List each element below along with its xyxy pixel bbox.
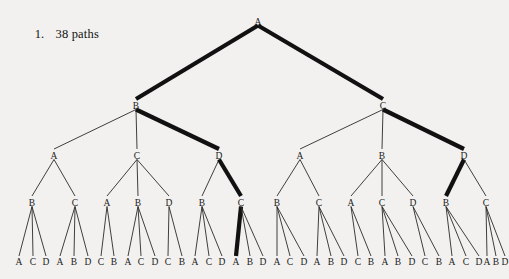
tree-leaf-edge-30 (413, 207, 425, 257)
tree-leaf-label-12: B (179, 257, 185, 267)
tree-node-label-n1c: D (216, 151, 223, 161)
tree-edge-c-b (382, 110, 383, 150)
tree-leaf-label-3: A (57, 257, 64, 267)
tree-leaf-label-18: D (260, 257, 267, 267)
tree-leaf-edge-22 (317, 207, 319, 257)
tree-node-label-n1b: C (134, 151, 140, 161)
tree-node-label-m4: B (135, 198, 141, 208)
tree-leaf-edge-37 (486, 207, 505, 257)
tree-leaf-label-37: D (502, 257, 509, 267)
tree-edge-b-a (351, 160, 382, 197)
tree-leaf-edge-4 (74, 207, 75, 257)
tree-node-label-m6: B (199, 198, 205, 208)
tree-node-label-m5: D (166, 198, 173, 208)
tree-leaf-edge-3 (60, 207, 75, 257)
tree-leaf-edge-0 (19, 207, 32, 257)
tree-edge-b-d (382, 160, 413, 197)
tree-leaf-label-5: D (85, 257, 92, 267)
tree-edge-c-a (300, 110, 383, 150)
tree-leaf-edge-2 (32, 207, 46, 257)
tree-leaf-edge-14 (202, 207, 209, 257)
tree-node-label-n2: C (380, 101, 386, 111)
tree-node-label-m11: C (379, 198, 385, 208)
tree-edge-c-a (107, 160, 137, 197)
tree-node-label-m3: A (104, 198, 111, 208)
tree-node-label-n2c: D (461, 151, 468, 161)
tree-node-label-m7: C (238, 198, 244, 208)
tree-leaf-edge-36 (486, 207, 496, 257)
tree-leaf-edge-17 (241, 207, 250, 257)
tree-leaf-edge-35 (486, 207, 487, 257)
tree-node-label-m9: C (316, 198, 322, 208)
tree-edge-c-d (137, 160, 169, 197)
tree-leaf-label-30: C (422, 257, 428, 267)
tree-node-label-n2a: A (297, 151, 304, 161)
tree-leaf-label-14: C (206, 257, 212, 267)
tree-leaf-label-8: A (125, 257, 132, 267)
tree-edge-b-d (136, 110, 219, 150)
tree-leaf-label-29: D (409, 257, 416, 267)
tree-edges (32, 26, 486, 197)
game-tree-diagram: ABCACDABDBCABDBCBCACDBC ACDABDCBACDCBACD… (0, 0, 509, 279)
tree-leaf-label-35: A (484, 257, 491, 267)
tree-leaf-label-23: B (328, 257, 334, 267)
tree-leaf-label-36: B (493, 257, 499, 267)
tree-node-label-m10: A (348, 198, 355, 208)
tree-leaf-label-32: A (449, 257, 456, 267)
tree-leaf-edge-16 (236, 207, 241, 257)
tree-leaf-label-22: A (314, 257, 321, 267)
tree-leaf-edge-18 (241, 207, 263, 257)
tree-leaf-edge-24 (319, 207, 344, 257)
tree-edge-a-b (136, 26, 258, 100)
tree-leaf-label-21: D (301, 257, 308, 267)
tree-leaf-edge-12 (169, 207, 182, 257)
tree-leaf-label-33: C (463, 257, 469, 267)
tree-edge-a-b (277, 160, 300, 197)
tree-leaf-label-20: C (287, 257, 293, 267)
tree-leaf-label-16: A (233, 257, 240, 267)
tree-leaf-labels: ACDABDCBACDCBACDABDACDABDCBABDCBACDABD (16, 257, 509, 267)
tree-leaf-edge-26 (351, 207, 371, 257)
tree-edge-d-c (219, 160, 241, 197)
tree-node-labels: ABCACDABDBCABDBCBCACDBC (29, 17, 489, 208)
tree-node-label-m14: C (483, 198, 489, 208)
tree-edge-b-a (54, 110, 136, 150)
tree-leaf-edge-15 (202, 207, 222, 257)
tree-leaf-edge-31 (413, 207, 439, 257)
tree-leaf-label-2: D (43, 257, 50, 267)
tree-leaf-label-34: D (476, 257, 483, 267)
tree-node-label-n2b: B (379, 151, 385, 161)
tree-leaf-label-10: D (152, 257, 159, 267)
tree-leaf-edge-29 (382, 207, 412, 257)
tree-leaf-label-0: A (16, 257, 23, 267)
tree-edge-d-b (446, 160, 464, 197)
tree-leaf-label-7: B (111, 257, 117, 267)
tree-leaf-edge-11 (168, 207, 169, 257)
tree-edge-d-c (464, 160, 486, 197)
tree-leaf-edge-23 (319, 207, 331, 257)
tree-node-label-n1a: A (51, 151, 58, 161)
tree-leaf-label-31: B (436, 257, 442, 267)
tree-leaf-label-6: C (98, 257, 104, 267)
tree-node-label-n1: B (133, 101, 139, 111)
tree-leaf-label-26: B (368, 257, 374, 267)
tree-node-label-n0: A (255, 17, 262, 27)
tree-leaf-label-11: C (165, 257, 171, 267)
tree-leaf-edge-7 (107, 207, 114, 257)
tree-leaf-label-25: C (355, 257, 361, 267)
tree-leaf-edge-8 (128, 207, 138, 257)
tree-leaf-label-17: B (247, 257, 253, 267)
tree-leaf-edge-21 (277, 207, 304, 257)
tree-leaf-edges (19, 207, 505, 257)
tree-node-label-m13: B (443, 198, 449, 208)
tree-leaf-label-27: A (382, 257, 389, 267)
tree-leaf-label-1: C (30, 257, 36, 267)
tree-leaf-label-19: A (274, 257, 281, 267)
tree-edge-c-b (137, 160, 138, 197)
tree-edge-a-c (258, 26, 383, 100)
tree-leaf-edge-13 (195, 207, 202, 257)
tree-edge-d-b (202, 160, 219, 197)
tree-leaf-label-9: C (138, 257, 144, 267)
tree-edge-a-b (32, 160, 54, 197)
tree-leaf-label-13: A (192, 257, 199, 267)
